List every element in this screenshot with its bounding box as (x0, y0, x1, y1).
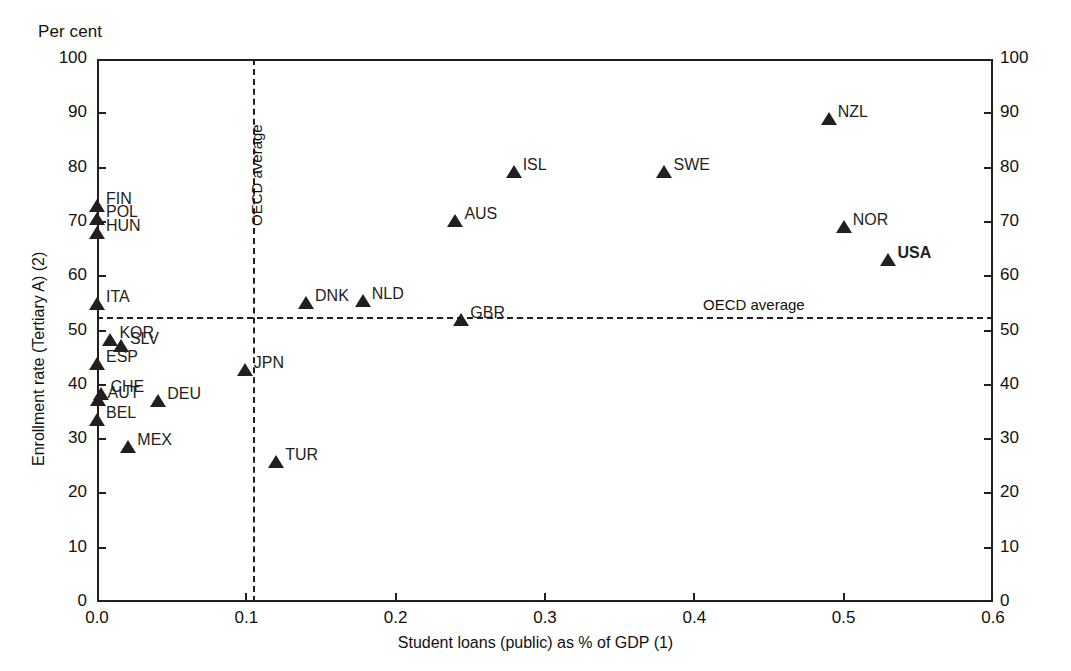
unit-caption: Per cent (38, 22, 102, 42)
data-point-marker[interactable] (656, 165, 672, 178)
y-tick-right (984, 275, 993, 277)
y-tick-label-right: 60 (1000, 265, 1060, 285)
x-tick-label: 0.4 (659, 608, 729, 628)
data-point-marker[interactable] (237, 363, 253, 376)
data-point-label: ITA (106, 288, 130, 306)
oecd-average-vertical-label: OECD average (248, 124, 265, 226)
y-tick-right (984, 330, 993, 332)
data-point-marker[interactable] (150, 394, 166, 407)
plot-area-frame (97, 59, 993, 602)
x-tick-label: 0.3 (510, 608, 580, 628)
data-point-label: ISL (523, 156, 547, 174)
data-point-marker[interactable] (836, 220, 852, 233)
y-tick-right (984, 221, 993, 223)
data-point-marker[interactable] (355, 294, 371, 307)
y-tick-label-left: 20 (27, 482, 87, 502)
y-tick-left (97, 275, 106, 277)
data-point-marker[interactable] (89, 199, 105, 212)
y-tick-label-right: 20 (1000, 482, 1060, 502)
data-point-marker[interactable] (268, 455, 284, 468)
data-point-marker[interactable] (447, 214, 463, 227)
data-point-label: ESP (106, 348, 138, 366)
data-point-label: NZL (838, 103, 868, 121)
x-tick (395, 593, 397, 602)
x-axis-title: Student loans (public) as % of GDP (1) (0, 634, 1071, 652)
y-tick-label-left: 10 (27, 537, 87, 557)
data-point-label: SLV (130, 330, 159, 348)
y-tick-label-right: 30 (1000, 428, 1060, 448)
y-tick-label-right: 10 (1000, 537, 1060, 557)
y-tick-label-left: 90 (27, 102, 87, 122)
y-axis-title: Enrollment rate (Tertiary A) (2) (30, 252, 48, 466)
data-point-label: DEU (167, 385, 201, 403)
x-tick (245, 593, 247, 602)
x-tick-label: 0.1 (211, 608, 281, 628)
y-tick-right (984, 384, 993, 386)
data-point-label: AUT (107, 384, 139, 402)
data-point-marker[interactable] (821, 112, 837, 125)
y-tick-right (984, 112, 993, 114)
y-tick-left (97, 492, 106, 494)
data-point-label: DNK (315, 287, 349, 305)
y-tick-right (984, 438, 993, 440)
x-tick-label: 0.0 (62, 608, 132, 628)
x-tick (843, 593, 845, 602)
data-point-label: TUR (285, 446, 318, 464)
data-point-marker[interactable] (880, 253, 896, 266)
y-tick-label-right: 100 (1000, 48, 1060, 68)
y-tick-label-left: 80 (27, 157, 87, 177)
y-tick-label-right: 90 (1000, 102, 1060, 122)
y-tick-left (97, 438, 106, 440)
oecd-average-horizontal-label: OECD average (700, 296, 808, 313)
y-tick-label-right: 70 (1000, 211, 1060, 231)
y-tick-label-right: 80 (1000, 157, 1060, 177)
x-tick (544, 593, 546, 602)
y-tick-label-right: 50 (1000, 320, 1060, 340)
x-tick (693, 593, 695, 602)
y-tick-right (984, 492, 993, 494)
y-tick-right (984, 167, 993, 169)
y-tick-left (97, 167, 106, 169)
y-tick-left (97, 112, 106, 114)
data-point-label: MEX (137, 431, 172, 449)
data-point-marker[interactable] (506, 165, 522, 178)
y-tick-right (984, 547, 993, 549)
y-tick-left (97, 547, 106, 549)
scatter-chart-figure: Per cent 0010102020303040405050606070708… (0, 0, 1071, 671)
data-point-label: GBR (470, 304, 505, 322)
x-tick-label: 0.5 (809, 608, 879, 628)
y-tick-label-left: 70 (27, 211, 87, 231)
data-point-marker[interactable] (89, 226, 105, 239)
y-tick-label-left: 100 (27, 48, 87, 68)
data-point-marker[interactable] (89, 357, 105, 370)
y-tick-left (97, 384, 106, 386)
x-tick-label: 0.2 (361, 608, 431, 628)
data-point-marker[interactable] (89, 297, 105, 310)
data-point-label: HUN (106, 217, 141, 235)
oecd-average-horizontal-line (97, 317, 993, 319)
y-tick-left (97, 330, 106, 332)
data-point-label: USA (897, 244, 931, 262)
data-point-marker[interactable] (120, 440, 136, 453)
data-point-label: BEL (106, 404, 136, 422)
y-tick-label-right: 40 (1000, 374, 1060, 394)
data-point-marker[interactable] (89, 413, 105, 426)
data-point-label: NLD (372, 285, 404, 303)
data-point-marker[interactable] (90, 393, 106, 406)
data-point-label: NOR (853, 211, 889, 229)
data-point-marker[interactable] (89, 212, 105, 225)
data-point-label: SWE (673, 156, 709, 174)
data-point-marker[interactable] (298, 296, 314, 309)
data-point-marker[interactable] (453, 313, 469, 326)
data-point-label: JPN (254, 354, 284, 372)
data-point-label: AUS (464, 205, 497, 223)
x-tick-label: 0.6 (958, 608, 1028, 628)
